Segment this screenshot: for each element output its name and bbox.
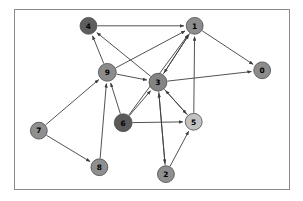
graph-node-circle-9[interactable] bbox=[98, 63, 116, 81]
graph-node-3[interactable]: 3 bbox=[149, 73, 167, 91]
graph-edge-8-to-9 bbox=[100, 84, 106, 159]
graph-node-6[interactable]: 6 bbox=[114, 114, 132, 132]
graph-node-circle-4[interactable] bbox=[80, 17, 97, 34]
graph-edge-6-to-9 bbox=[111, 83, 121, 114]
graph-node-circle-7[interactable] bbox=[30, 122, 47, 139]
graph-edge-7-to-8 bbox=[46, 135, 90, 161]
graph-edge-5-to-1 bbox=[194, 37, 195, 113]
graph-edge-1-to-3 bbox=[164, 33, 190, 72]
graph-edge-6-to-3 bbox=[129, 91, 150, 116]
graph-node-0[interactable]: 0 bbox=[254, 62, 271, 79]
graph-node-circle-5[interactable] bbox=[185, 113, 202, 130]
graph-node-1[interactable]: 1 bbox=[186, 17, 203, 34]
graph-edge-1-to-0 bbox=[202, 31, 253, 65]
graph-edge-2-to-5 bbox=[170, 131, 189, 166]
graph-node-9[interactable]: 9 bbox=[98, 63, 116, 81]
graph-panel: 0123456789 bbox=[14, 9, 290, 190]
graph-edge-9-to-3 bbox=[117, 74, 147, 80]
graph-node-7[interactable]: 7 bbox=[30, 122, 47, 139]
graph-node-4[interactable]: 4 bbox=[80, 17, 97, 34]
graph-node-circle-1[interactable] bbox=[186, 17, 203, 34]
graph-edge-7-to-9 bbox=[46, 80, 99, 125]
graph-node-5[interactable]: 5 bbox=[185, 113, 202, 130]
graph-node-circle-2[interactable] bbox=[157, 166, 174, 183]
directed-graph-canvas: 0123456789 bbox=[15, 10, 289, 189]
graph-node-circle-6[interactable] bbox=[114, 114, 132, 132]
nodes-layer: 0123456789 bbox=[30, 17, 270, 182]
graph-edge-2-to-3 bbox=[159, 93, 165, 165]
graph-node-8[interactable]: 8 bbox=[91, 159, 108, 176]
graph-node-circle-8[interactable] bbox=[91, 159, 108, 176]
graph-edge-9-to-4 bbox=[93, 36, 104, 64]
graph-edge-9-to-1 bbox=[116, 31, 185, 68]
graph-edge-3-to-0 bbox=[167, 72, 251, 82]
edges-layer bbox=[46, 26, 254, 166]
graph-edge-6-to-5 bbox=[133, 122, 183, 123]
graph-node-circle-0[interactable] bbox=[254, 62, 271, 79]
graph-edge-5-to-3 bbox=[166, 91, 188, 116]
graph-node-circle-3[interactable] bbox=[149, 73, 167, 91]
graph-node-2[interactable]: 2 bbox=[157, 166, 174, 183]
